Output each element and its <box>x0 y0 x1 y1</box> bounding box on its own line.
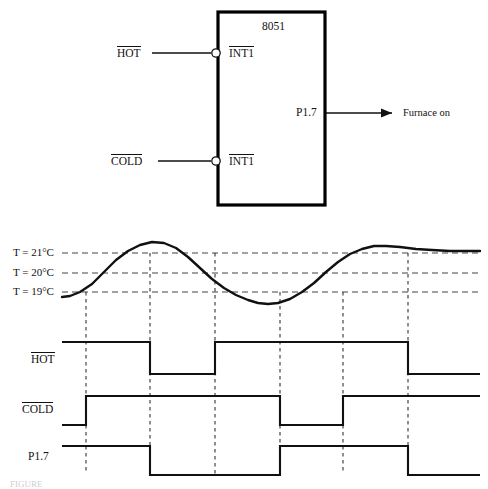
pin-label-p17: P1.7 <box>296 106 317 118</box>
figure-caption: FIGURE <box>10 479 43 489</box>
signal-label-hot: HOT <box>31 352 55 365</box>
waveform-p17 <box>62 446 480 475</box>
pin-label-int1-top: INT1 <box>229 46 254 59</box>
input-source-label-hot: HOT <box>117 46 141 59</box>
diagram-canvas: 8051 INT1 INT1 P1.7 HOT COLD Furnace on … <box>0 0 488 489</box>
inversion-bubble-icon-bottom <box>212 157 220 165</box>
signal-waveform-group <box>62 342 480 475</box>
signal-label-cold: COLD <box>22 402 53 415</box>
temp-label-20c: T = 20°C <box>13 266 54 278</box>
chip-name-label: 8051 <box>262 20 285 32</box>
inversion-bubble-icon-top <box>212 49 220 57</box>
waveform-hot <box>62 342 480 374</box>
signal-label-p17: P1.7 <box>28 450 49 462</box>
temp-label-21c: T = 21°C <box>13 246 54 258</box>
input-source-label-cold: COLD <box>111 154 142 167</box>
temp-label-19c: T = 19°C <box>13 285 54 297</box>
waveform-cold <box>62 396 480 425</box>
output-destination-label-furnace: Furnace on <box>403 107 450 118</box>
diagram-svg <box>0 0 488 489</box>
pin-label-int1-bottom: INT1 <box>229 154 254 167</box>
arrowhead-icon-furnace <box>381 109 392 118</box>
